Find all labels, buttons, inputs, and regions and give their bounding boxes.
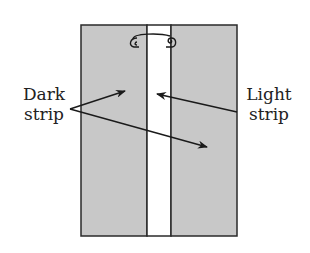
dark-strip-label: Dark strip bbox=[18, 84, 70, 124]
left-dark-panel bbox=[81, 25, 147, 236]
light-strip-label-line1: Light bbox=[241, 84, 297, 104]
light-strip-label-line2: strip bbox=[241, 104, 297, 124]
right-dark-panel bbox=[171, 25, 237, 236]
light-strip-label: Light strip bbox=[241, 84, 297, 124]
diagram-canvas: Dark strip Light strip bbox=[0, 0, 310, 253]
dark-strip-label-line1: Dark bbox=[18, 84, 70, 104]
dark-strip-label-line2: strip bbox=[18, 104, 70, 124]
center-light-strip bbox=[147, 25, 171, 236]
diagram-svg bbox=[0, 0, 310, 253]
